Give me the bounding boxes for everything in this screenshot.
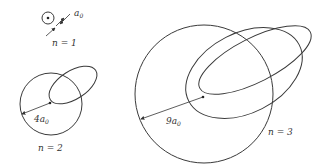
radius-label-n2: 4a0: [33, 114, 49, 125]
radius-arrow-n2: [22, 103, 50, 114]
elliptical-orbit-n2: [43, 59, 104, 112]
orbit-n1: a0 n = 1: [42, 8, 83, 48]
radius-label-n3: 9a0: [166, 116, 181, 127]
nucleus-n1: [47, 17, 50, 20]
elliptical-orbit-n3-wide: [171, 9, 318, 137]
n-label-n2: n = 2: [38, 143, 63, 153]
orbit-diagram: a0 n = 1 4a0 n = 2 9a0 n = 3: [0, 0, 321, 166]
elliptical-orbit-n3-narrow: [190, 12, 320, 107]
radius-label-n1: a0: [74, 8, 83, 19]
orbit-n3: 9a0 n = 3: [135, 9, 320, 163]
n-label-n3: n = 3: [268, 127, 293, 137]
circular-orbit-n2: [20, 73, 82, 135]
n-label-n1: n = 1: [52, 38, 77, 48]
radius-arrow-out: [56, 18, 64, 26]
radius-arrow-in-top: [60, 14, 70, 24]
orbit-n2: 4a0 n = 2: [20, 59, 103, 153]
radius-arrow-in-bottom: [46, 28, 55, 36]
circular-orbit-n3: [135, 25, 273, 163]
